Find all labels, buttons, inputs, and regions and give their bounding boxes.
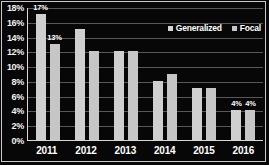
bar-group: 17%13% — [28, 8, 67, 140]
y-axis: 18%16%14%12%10%8%6%4%2%0% — [0, 8, 26, 141]
y-axis-tick: 8% — [12, 77, 24, 87]
legend-label: Focal — [240, 23, 261, 33]
y-axis-tick: 4% — [12, 106, 24, 116]
y-axis-tick: 2% — [12, 121, 24, 131]
legend-swatch-icon — [168, 26, 173, 31]
y-axis-tick: 18% — [7, 3, 24, 13]
x-axis-tick: 2012 — [66, 143, 105, 161]
bar-focal-2014 — [167, 74, 177, 141]
bar-value-label: 13% — [47, 33, 61, 42]
bar-generalized-2013 — [114, 51, 124, 140]
legend-swatch-icon — [232, 26, 237, 31]
y-axis-tick: 0% — [12, 136, 24, 146]
bar-focal-2015 — [206, 88, 216, 140]
bar-group — [106, 8, 145, 140]
x-axis-tick: 2013 — [106, 143, 145, 161]
chart-legend: GeneralizedFocal — [168, 23, 261, 33]
x-axis-tick: 2015 — [184, 143, 223, 161]
bar-generalized-2012 — [75, 29, 85, 140]
legend-label: Generalized — [176, 23, 222, 33]
legend-item-focal[interactable]: Focal — [232, 23, 261, 33]
bar-group — [67, 8, 106, 140]
x-axis-tick: 2011 — [27, 143, 66, 161]
bar-generalized-2014 — [153, 81, 163, 140]
bar-focal-2013 — [128, 51, 138, 140]
x-axis-tick: 2016 — [224, 143, 263, 161]
bar-focal-2016: 4% — [245, 110, 255, 140]
bar-chart: 18%16%14%12%10%8%6%4%2%0% 17%13%4%4% Gen… — [0, 0, 269, 165]
bar-value-label: 4% — [245, 99, 255, 108]
bar-value-label: 17% — [33, 3, 47, 12]
y-axis-tick: 10% — [7, 62, 24, 72]
bar-focal-2012 — [89, 51, 99, 140]
legend-item-generalized[interactable]: Generalized — [168, 23, 222, 33]
y-axis-tick: 16% — [7, 18, 24, 28]
y-axis-tick: 14% — [7, 33, 24, 43]
bar-focal-2011: 13% — [50, 44, 60, 140]
y-axis-tick: 12% — [7, 47, 24, 57]
bar-generalized-2016: 4% — [231, 110, 241, 140]
x-axis: 201120122013201420152016 — [27, 143, 263, 161]
y-axis-tick: 6% — [12, 92, 24, 102]
bar-value-label: 4% — [231, 99, 241, 108]
bar-generalized-2015 — [192, 88, 202, 140]
bar-generalized-2011: 17% — [36, 14, 46, 140]
x-axis-tick: 2014 — [145, 143, 184, 161]
chart-canvas: 18%16%14%12%10%8%6%4%2%0% 17%13%4%4% Gen… — [0, 0, 269, 165]
